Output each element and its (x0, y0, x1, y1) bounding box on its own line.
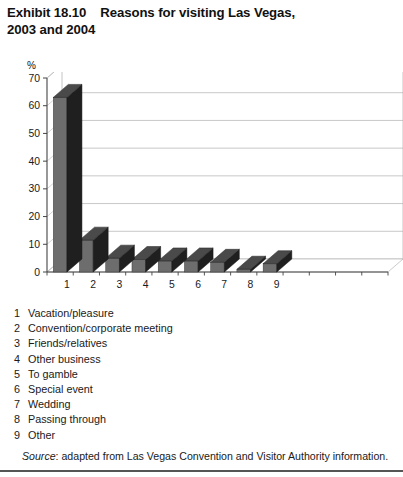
bar-side-face (67, 84, 82, 272)
list-item: 3 Friends/relatives (14, 336, 394, 351)
key-label: To gamble (28, 367, 394, 382)
key-label: Special event (28, 382, 394, 397)
bar-front-face (132, 260, 146, 272)
key-label: Passing through (28, 412, 394, 427)
exhibit-title-line1: Reasons for visiting Las Vegas, (100, 5, 295, 20)
page-divider (0, 470, 403, 472)
key-number: 4 (14, 352, 28, 367)
y-axis-tick-label: 10 (28, 239, 40, 250)
x-axis-tick-label: 1 (64, 279, 70, 290)
y-axis-tick-label: 40 (28, 156, 40, 167)
key-number: 2 (14, 321, 28, 336)
exhibit-title: Exhibit 18.10Reasons for visiting Las Ve… (7, 4, 399, 38)
exhibit-number: Exhibit 18.10 (7, 5, 86, 20)
list-item: 4 Other business (14, 352, 394, 367)
list-item: 9 Other (14, 428, 394, 443)
list-item: 8 Passing through (14, 412, 394, 427)
list-item: 2 Convention/corporate meeting (14, 321, 394, 336)
bar-front-face (53, 97, 67, 272)
key-label: Vacation/pleasure (28, 306, 394, 321)
key-label: Friends/relatives (28, 336, 394, 351)
key-number: 6 (14, 382, 28, 397)
y-axis-tick-label: 20 (28, 211, 40, 222)
x-axis-tick-label: 4 (143, 279, 149, 290)
bar-front-face (263, 264, 277, 272)
bar-front-face (158, 261, 172, 272)
key-number: 1 (14, 306, 28, 321)
x-axis-tick-label: 9 (274, 279, 280, 290)
bar-front-face (237, 269, 251, 272)
bar-chart: 010203040506070123456789 (0, 72, 403, 292)
chart-canvas: 010203040506070123456789 (0, 72, 403, 292)
y-axis-tick-label: 0 (34, 267, 40, 278)
x-axis-tick-label: 2 (90, 279, 96, 290)
x-axis-tick-label: 6 (195, 279, 201, 290)
chart-top-left-edge (47, 72, 62, 78)
y-axis-tick-label: 70 (28, 73, 40, 84)
category-key: 1 Vacation/pleasure 2 Convention/corpora… (14, 306, 394, 443)
y-axis-tick-label: 30 (28, 183, 40, 194)
bar-front-face (211, 262, 225, 272)
exhibit-title-line2: 2003 and 2004 (7, 22, 95, 37)
x-axis-tick-label: 8 (248, 279, 254, 290)
bar-front-face (184, 261, 198, 272)
key-number: 8 (14, 412, 28, 427)
source-label: Source (22, 450, 56, 462)
x-axis-tick-label: 3 (116, 279, 122, 290)
list-item: 5 To gamble (14, 367, 394, 382)
key-number: 5 (14, 367, 28, 382)
key-label: Wedding (28, 397, 394, 412)
source-note: Source: adapted from Las Vegas Conventio… (22, 450, 388, 462)
gridline-depth-connector (47, 72, 62, 78)
list-item: 1 Vacation/pleasure (14, 306, 394, 321)
bar-front-face (106, 258, 120, 272)
key-number: 3 (14, 336, 28, 351)
y-axis-unit-label: % (27, 60, 36, 71)
source-text: : adapted from Las Vegas Convention and … (56, 450, 389, 462)
x-axis-tick-label: 5 (169, 279, 175, 290)
list-item: 7 Wedding (14, 397, 394, 412)
x-axis-tick-label: 7 (221, 279, 227, 290)
key-number: 7 (14, 397, 28, 412)
key-label: Convention/corporate meeting (28, 321, 394, 336)
exhibit-figure: Exhibit 18.10Reasons for visiting Las Ve… (0, 0, 403, 477)
key-label: Other (28, 428, 394, 443)
key-label: Other business (28, 352, 394, 367)
y-axis-tick-label: 60 (28, 100, 40, 111)
bar-column (53, 84, 82, 272)
key-number: 9 (14, 428, 28, 443)
list-item: 6 Special event (14, 382, 394, 397)
y-axis-tick-label: 50 (28, 128, 40, 139)
